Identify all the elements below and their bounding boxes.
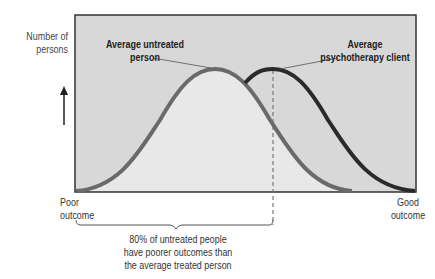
caption: 80% of untreated people have poorer outc… [119, 233, 238, 272]
poor-outcome-label: Poor outcome [60, 196, 111, 222]
untreated-label: Average untreated person [98, 38, 192, 64]
poor-outcome-text: Poor outcome [60, 196, 94, 221]
y-axis-arrow-icon [60, 86, 68, 125]
good-outcome-label: Good outcome [383, 196, 434, 222]
caption-text: 80% of untreated people have poorer outc… [124, 233, 233, 271]
untreated-label-text: Average untreated person [106, 38, 184, 63]
treated-label-text: Average psychotherapy client [320, 38, 409, 63]
treated-label: Average psychotherapy client [318, 38, 412, 64]
good-outcome-text: Good outcome [391, 196, 425, 221]
